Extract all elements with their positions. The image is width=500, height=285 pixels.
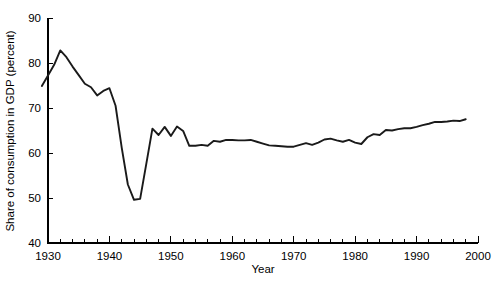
y-tick-label: 60 [28,147,41,159]
x-tick-label: 1960 [219,250,245,262]
x-tick-label: 1950 [158,250,184,262]
y-axis-title: Share of consumption in GDP (percent) [4,30,16,231]
y-tick-label: 40 [28,237,41,249]
y-tick-label: 90 [28,12,41,24]
axes-layer [48,18,478,243]
line-chart: 19301940195019601970198019902000 4050607… [0,0,500,285]
chart-figure: 19301940195019601970198019902000 4050607… [0,0,500,285]
y-tick-label: 70 [28,102,41,114]
x-tick-labels: 19301940195019601970198019902000 [35,250,491,262]
y-tick-label: 50 [28,192,41,204]
x-tick-label: 1990 [404,250,430,262]
y-tick-labels: 405060708090 [28,12,41,249]
x-tick-label: 1930 [35,250,61,262]
x-axis-title: Year [251,263,274,275]
x-tick-label: 1970 [281,250,307,262]
x-tick-label: 1940 [97,250,123,262]
x-tick-label: 1980 [342,250,368,262]
ticks-layer [48,18,478,243]
data-line [42,50,466,199]
data-series-layer [42,50,466,199]
axis-spines [48,18,478,243]
y-tick-label: 80 [28,57,41,69]
x-tick-label: 2000 [465,250,491,262]
